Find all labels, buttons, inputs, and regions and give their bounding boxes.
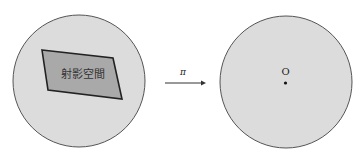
projective-space-label: 射影空間 — [61, 67, 105, 81]
diagram-canvas: 射影空間 π O — [0, 0, 361, 164]
origin-point — [284, 81, 287, 84]
map-label-pi: π — [179, 67, 187, 77]
origin-label: O — [281, 66, 289, 77]
arrow-head-icon — [201, 81, 206, 86]
